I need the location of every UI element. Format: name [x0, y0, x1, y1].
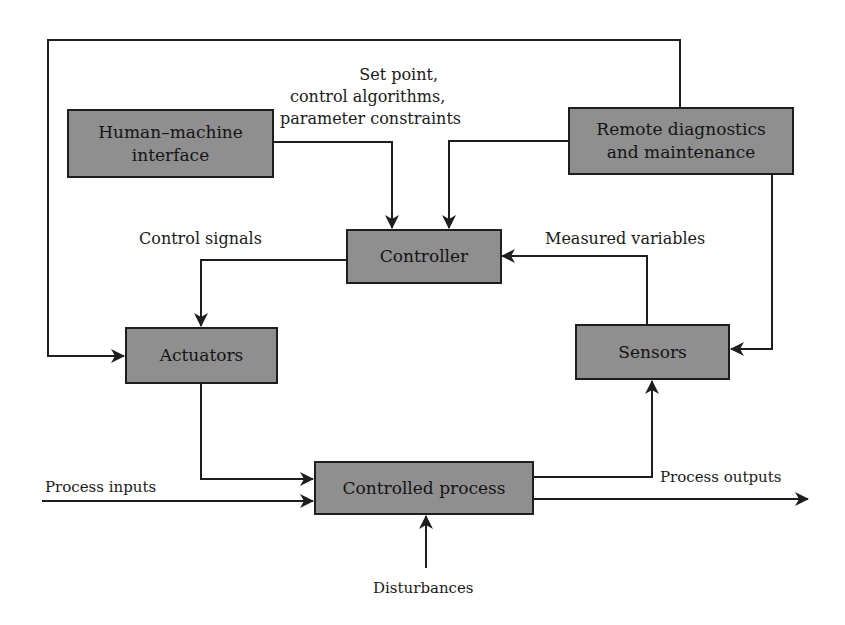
control-signals-label: Control signals — [139, 228, 262, 249]
controller-label: Controller — [380, 245, 468, 268]
sensors-block: Sensors — [575, 324, 730, 380]
setpoint-label: Set point, — [270, 64, 440, 85]
wire-sensors-to-controller — [502, 256, 647, 325]
disturbances-label: Disturbances — [373, 578, 474, 599]
wire-controller-to-actuators — [201, 260, 346, 326]
wire-remote-to-controller — [449, 141, 568, 228]
remote-label-line2: and maintenance — [607, 141, 756, 164]
setpoint-line3: parameter constraints — [280, 109, 461, 128]
controlled-process-block: Controlled process — [314, 461, 534, 515]
remote-diagnostics-block: Remote diagnostics and maintenance — [568, 107, 794, 175]
setpoint-line2-wrap: control algorithms, — [290, 86, 445, 107]
setpoint-line1: Set point, — [270, 64, 440, 85]
controller-block: Controller — [346, 229, 502, 284]
sensors-label: Sensors — [618, 341, 686, 364]
wire-process-to-sensors — [534, 381, 652, 477]
process-outputs-label: Process outputs — [660, 467, 781, 488]
process-label: Controlled process — [343, 477, 506, 500]
measured-variables-label: Measured variables — [545, 228, 705, 249]
hmi-label-line2: interface — [132, 144, 209, 167]
setpoint-line2: control algorithms, — [290, 87, 445, 106]
actuators-block: Actuators — [125, 327, 278, 384]
remote-label-line1: Remote diagnostics — [596, 118, 765, 141]
wire-remote-to-sensors — [731, 174, 772, 349]
process-inputs-label: Process inputs — [45, 477, 156, 498]
wire-actuators-to-process — [201, 383, 313, 479]
wire-hmi-to-controller — [273, 142, 392, 228]
setpoint-line3-wrap: parameter constraints — [280, 108, 461, 129]
actuators-label: Actuators — [160, 344, 244, 367]
hmi-label-line1: Human–machine — [98, 121, 243, 144]
hmi-block: Human–machine interface — [67, 109, 274, 178]
